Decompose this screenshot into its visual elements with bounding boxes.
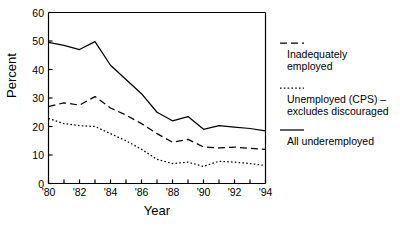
chart-figure: Percent Year 0102030405060 '80'82'84'86'… <box>0 0 400 228</box>
legend-label: Unemployed (CPS) – <box>287 94 400 106</box>
legend-entry[interactable]: All underemployed <box>277 127 400 148</box>
legend-entry[interactable]: Unemployed (CPS) –excludes discouraged <box>277 85 400 117</box>
series-line-dotted <box>49 119 266 167</box>
series-line-solid <box>49 42 266 131</box>
legend-line-sample-dashed <box>280 40 304 48</box>
series-line-dashed <box>49 97 266 150</box>
legend-label-line2: employed <box>287 61 400 73</box>
legend-label: All underemployed <box>287 136 400 148</box>
legend-label-line2: excludes discouraged <box>287 106 400 118</box>
legend-line-sample-solid <box>280 127 304 135</box>
legend-label: Inadequately <box>287 49 400 61</box>
legend-entry[interactable]: Inadequatelyemployed <box>277 40 400 72</box>
legend-line-sample-dotted <box>280 85 304 93</box>
